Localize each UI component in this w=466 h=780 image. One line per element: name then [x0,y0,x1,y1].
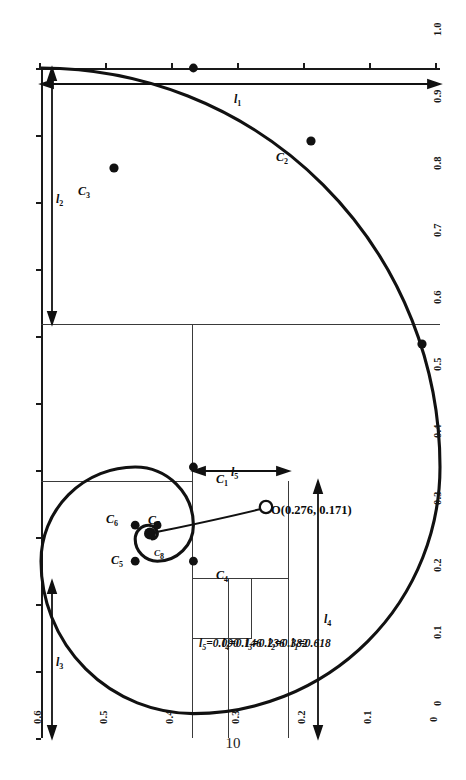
figure-container: C1 C2 C3 C4 C5 C6 C7 C8 O(0.276, 0.171) … [0,0,466,780]
spiral-marker-b [306,136,315,145]
x-tick-label-1.0: 1.0 [432,22,443,36]
x-tick-label-0.2: 0.2 [432,558,443,572]
y-tick-label-0.2: 0.2 [296,710,307,724]
legend-item-l5: l5=0.090 [199,637,239,652]
curve-label-C1: C1 [216,472,228,488]
y-tick-label-0.5: 0.5 [98,710,109,724]
centre-dot-C6 [131,521,140,530]
y-tick-label-0.1: 0.1 [362,710,373,724]
dimension-arrow-l5 [193,467,289,475]
dimension-label-l3: l3 [56,655,63,671]
y-tick-label-0: 0 [428,717,439,722]
dimension-arrow-l4 [314,481,322,738]
x-tick-label-0.1: 0.1 [432,625,443,639]
y-tick-label-0.3: 0.3 [230,710,241,724]
curve-label-C4: C4 [216,568,228,584]
dimension-arrow-l1 [41,80,440,88]
curve-label-C8: C8 [154,548,164,561]
rotated-figure-canvas: C1 C2 C3 C4 C5 C6 C7 C8 O(0.276, 0.171) … [0,0,466,780]
x-tick-label-0.4: 0.4 [432,424,443,438]
y-tick-label-0.4: 0.4 [164,710,175,724]
spiral-marker-c [109,163,118,172]
dimension-arrow-l2 [48,68,56,324]
page-number: 10 [0,735,466,752]
dimension-label-l1: l1 [234,92,241,108]
origin-coordinate-label: O(0.276, 0.171) [271,503,352,518]
spiral-marker-a [417,339,426,348]
spiral-curve-svg [0,0,466,780]
centre-dot-C4 [189,557,198,566]
curve-label-C3: C3 [78,184,90,200]
dimension-arrow-l3 [48,581,56,738]
x-tick-label-0.5: 0.5 [432,357,443,371]
x-tick-label-0.9: 0.9 [432,89,443,103]
dimension-label-l2: l2 [56,192,63,208]
curve-label-C5: C5 [111,553,123,569]
curve-label-C7: C7 [148,513,160,529]
pole-leader-line [150,509,261,534]
x-tick-label-0: 0 [432,701,443,706]
centre-dot-C2 [189,64,198,73]
dimension-label-l5: l5 [231,465,238,481]
curve-label-C2: C2 [276,150,288,166]
dimension-label-l4: l4 [324,612,331,628]
curve-label-C6: C6 [106,512,118,528]
y-tick-label-0.6: 0.6 [32,710,43,724]
x-tick-label-0.7: 0.7 [432,223,443,237]
centre-dot-C5 [131,557,140,566]
x-tick-label-0.3: 0.3 [432,491,443,505]
x-tick-label-0.6: 0.6 [432,290,443,304]
x-tick-label-0.8: 0.8 [432,156,443,170]
golden-spiral-path [41,68,440,714]
